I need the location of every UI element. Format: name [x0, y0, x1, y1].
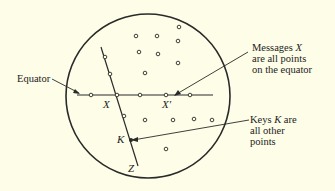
messages-line2: are all points	[252, 53, 312, 64]
keys-text-b: are	[281, 114, 296, 125]
arrowhead-icon	[73, 89, 80, 94]
keys-line2: all other	[250, 125, 297, 136]
messages-text: Messages	[252, 42, 295, 53]
sphere-diagram	[0, 0, 335, 191]
other-points	[134, 25, 214, 151]
messages-pointer	[175, 52, 248, 95]
point-label-z: Z	[128, 162, 134, 174]
messages-line1: Messages X	[252, 42, 312, 53]
key-point	[129, 138, 133, 142]
keys-line3: points	[250, 136, 297, 147]
keys-line1: Keys K are	[250, 114, 297, 125]
equator-text: Equator	[17, 73, 50, 84]
keys-label: Keys K are all other points	[250, 114, 297, 147]
messages-label: Messages X are all points on the equator	[252, 42, 312, 75]
keys-text: Keys	[250, 114, 274, 125]
equator-label: Equator	[17, 73, 50, 84]
messages-var: X	[295, 42, 301, 53]
point-label-x-prime: X′	[162, 98, 171, 110]
point-label-x: X	[103, 98, 110, 110]
messages-line3: on the equator	[252, 64, 312, 75]
keys-pointer	[133, 120, 249, 140]
point-label-k: K	[117, 133, 124, 145]
